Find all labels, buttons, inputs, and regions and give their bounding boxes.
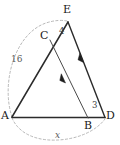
vertex-label-B: B xyxy=(84,120,92,131)
segment-CB xyxy=(50,40,88,118)
vertex-label-D: D xyxy=(106,110,115,121)
length-label-BD: 3 xyxy=(92,101,97,110)
vertex-label-A: A xyxy=(1,110,9,121)
geometry-figure: A B C D E 4 3 16 x xyxy=(0,0,120,145)
diagram-canvas xyxy=(0,0,120,145)
arc-label-16: 16 xyxy=(11,55,22,64)
arrow-on-CB xyxy=(60,74,66,83)
segment-ED xyxy=(68,22,105,118)
vertex-label-E: E xyxy=(63,4,71,15)
vertex-label-C: C xyxy=(40,30,48,41)
arc-label-x: x xyxy=(55,131,60,140)
length-label-CE: 4 xyxy=(59,27,64,36)
